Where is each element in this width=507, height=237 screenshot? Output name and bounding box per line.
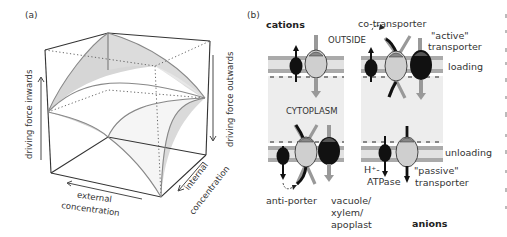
label-passive-transporter-line2: transporter (415, 178, 469, 188)
label-cytoplasm: CYTOPLASM (286, 107, 337, 116)
label-vacuole-line2: xylem/ (331, 208, 363, 218)
label-active-transporter-line1: "active" (431, 31, 469, 41)
label-unloading: unloading (445, 148, 492, 158)
label-co-transporter: co-transporter (358, 19, 426, 29)
label-passive-transporter-line1: "passive" (414, 166, 459, 176)
label-loading: loading (448, 62, 483, 72)
label-outside: OUTSIDE (328, 36, 366, 45)
label-anti-porter: anti-porter (266, 196, 317, 206)
label-vacuole-line3: apoplast (331, 220, 372, 230)
label-cations: cations (266, 20, 305, 30)
label-active-transporter-line2: transporter (428, 42, 482, 52)
label-anions: anions (412, 219, 447, 229)
label-h-atpase-line2: ATPase (367, 177, 400, 187)
label-vacuole-line1: vacuole/ (331, 196, 371, 206)
label-h-atpase-line1: H⁺- (364, 165, 380, 175)
